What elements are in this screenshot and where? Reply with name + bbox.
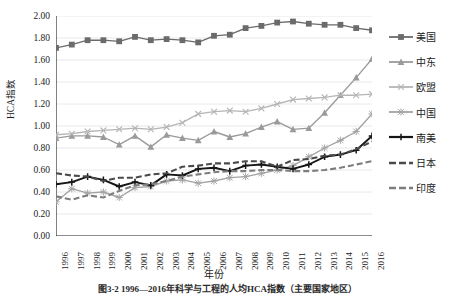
y-axis-tick: 1.40 — [16, 78, 50, 87]
data-point-marker — [242, 173, 249, 180]
data-point-marker — [195, 40, 201, 46]
data-point-marker — [100, 188, 107, 195]
y-axis-tick: 2.00 — [16, 12, 50, 21]
legend-label: 南美 — [416, 130, 436, 145]
y-axis-tick: 0.80 — [16, 144, 50, 153]
data-point-marker — [69, 179, 76, 186]
data-point-marker — [211, 33, 217, 39]
data-point-marker — [259, 23, 265, 29]
data-point-marker — [353, 25, 359, 31]
legend-item-南美[interactable]: 南美 — [388, 125, 454, 150]
legend-label: 中国 — [416, 105, 436, 120]
data-point-marker — [210, 177, 217, 184]
data-point-marker — [68, 185, 75, 192]
data-point-marker — [321, 144, 328, 151]
legend-item-美国[interactable]: 美国 — [388, 24, 454, 49]
data-point-marker — [116, 141, 123, 147]
legend-label: 印度 — [416, 180, 436, 195]
data-point-marker — [56, 45, 59, 51]
y-axis-tick: 0.60 — [16, 166, 50, 175]
legend-marker-icon — [388, 105, 414, 119]
y-axis-tick: 0.40 — [16, 188, 50, 197]
legend-item-中国[interactable]: 中国 — [388, 100, 454, 125]
data-point-marker — [116, 194, 123, 201]
y-axis-tick: 0.20 — [16, 210, 50, 219]
data-point-marker — [397, 109, 404, 116]
data-point-marker — [306, 21, 312, 27]
data-point-marker — [132, 132, 139, 138]
legend-marker-icon — [388, 55, 414, 69]
data-point-marker — [211, 128, 218, 134]
data-point-marker — [398, 34, 404, 40]
legend-item-日本[interactable]: 日本 — [388, 150, 454, 175]
y-axis-tick: 1.80 — [16, 34, 50, 43]
legend-label: 日本 — [416, 155, 436, 170]
data-point-marker — [398, 134, 405, 141]
data-point-marker — [227, 32, 233, 38]
data-point-marker — [243, 25, 249, 31]
legend-marker-icon — [388, 156, 414, 170]
legend-marker-icon — [388, 30, 414, 44]
x-axis-tick: 2016 — [376, 252, 386, 270]
data-point-marker — [180, 37, 186, 43]
y-axis-tick-labels: 0.000.200.400.600.801.001.201.401.601.80… — [10, 0, 50, 294]
y-axis-tick: 1.60 — [16, 56, 50, 65]
data-point-marker — [132, 34, 138, 40]
plot-area — [56, 16, 372, 236]
x-axis-title: 年份 — [56, 266, 372, 281]
data-point-marker — [338, 22, 344, 28]
data-point-marker — [116, 38, 122, 44]
legend-item-印度[interactable]: 印度 — [388, 175, 454, 200]
legend-label: 欧盟 — [416, 79, 436, 94]
data-point-marker — [148, 37, 154, 43]
hca-index-line-chart: HCA指数 0.000.200.400.600.801.001.201.401.… — [0, 0, 455, 294]
data-point-marker — [337, 137, 344, 144]
data-point-marker — [353, 128, 360, 135]
legend-label: 中东 — [416, 54, 436, 69]
data-point-marker — [226, 174, 233, 181]
legend-item-中东[interactable]: 中东 — [388, 49, 454, 74]
figure-caption: 图3-2 1996—2016年科学与工程的人均HCA指数（主要国家地区） — [0, 282, 455, 294]
legend-marker-icon — [388, 80, 414, 94]
legend-marker-icon — [388, 181, 414, 195]
data-point-marker — [164, 36, 170, 42]
data-point-marker — [116, 183, 123, 190]
data-point-marker — [195, 180, 202, 187]
data-point-marker — [369, 55, 372, 61]
series-0 — [56, 19, 372, 51]
y-axis-tick: 1.00 — [16, 122, 50, 131]
y-axis-tick: 0.00 — [16, 232, 50, 241]
data-point-marker — [274, 20, 280, 26]
data-point-marker — [163, 131, 170, 137]
legend-marker-icon — [388, 130, 414, 144]
data-point-marker — [101, 37, 107, 43]
data-point-marker — [322, 22, 328, 28]
legend-item-欧盟[interactable]: 欧盟 — [388, 74, 454, 99]
y-axis-tick: 1.20 — [16, 100, 50, 109]
data-point-marker — [274, 118, 281, 124]
series-1 — [56, 55, 372, 149]
data-point-marker — [56, 181, 59, 188]
data-point-marker — [69, 42, 75, 48]
data-point-marker — [369, 27, 372, 33]
data-point-marker — [290, 19, 296, 25]
legend-label: 美国 — [416, 29, 436, 44]
chart-legend: 美国中东欧盟中国南美日本印度 — [388, 24, 454, 200]
data-point-marker — [242, 162, 249, 169]
data-point-marker — [85, 37, 91, 43]
data-point-marker — [306, 161, 313, 168]
